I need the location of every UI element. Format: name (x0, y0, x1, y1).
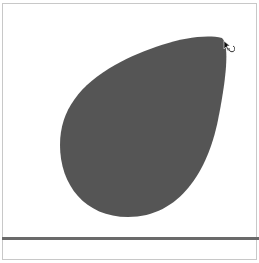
teardrop-shape[interactable] (60, 37, 226, 217)
baseline-divider (2, 237, 259, 240)
rotate-cursor-icon (223, 40, 235, 54)
drawing-canvas[interactable] (0, 0, 259, 263)
